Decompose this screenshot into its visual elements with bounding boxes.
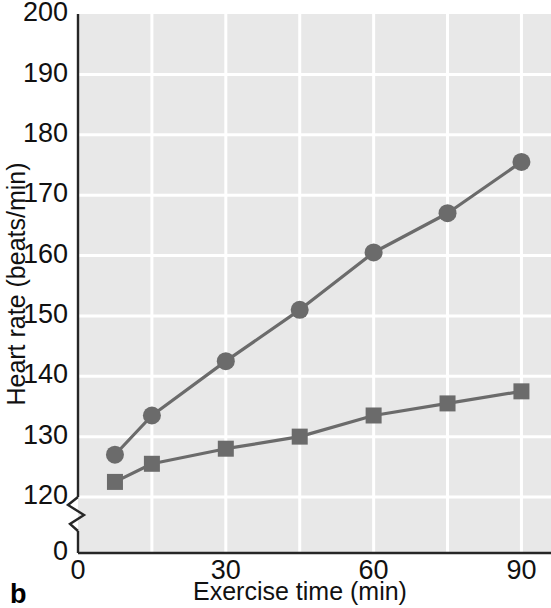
data-point-circle xyxy=(143,406,161,424)
data-point-square xyxy=(366,407,382,423)
y-axis-title: Heart rate (beats/min) xyxy=(2,162,30,405)
data-point-circle xyxy=(106,446,124,464)
data-point-circle xyxy=(512,153,530,171)
plot-background xyxy=(78,14,551,553)
data-point-circle xyxy=(365,243,383,261)
y-axis-origin-label: 0 xyxy=(53,536,68,566)
figure-panel-b: 120130140150160170180190200 0 0306090 He… xyxy=(0,0,551,608)
y-tick-label: 120 xyxy=(23,480,68,510)
data-point-circle xyxy=(439,204,457,222)
data-point-square xyxy=(107,474,123,490)
data-point-square xyxy=(292,429,308,445)
heart-rate-line-chart: 120130140150160170180190200 0 0306090 He… xyxy=(0,0,551,608)
x-axis-title: Exercise time (min) xyxy=(193,577,407,605)
y-tick-label: 130 xyxy=(23,420,68,450)
data-point-circle xyxy=(217,352,235,370)
data-point-circle xyxy=(291,301,309,319)
y-tick-label: 200 xyxy=(23,0,68,27)
plot-background-below-break xyxy=(78,497,551,553)
panel-label-b: b xyxy=(10,579,27,608)
data-point-square xyxy=(218,441,234,457)
data-point-square xyxy=(440,395,456,411)
x-tick-label: 0 xyxy=(70,555,85,585)
y-tick-label: 180 xyxy=(23,118,68,148)
x-tick-label: 90 xyxy=(506,555,536,585)
data-point-square xyxy=(513,383,529,399)
data-point-square xyxy=(144,456,160,472)
y-tick-label: 190 xyxy=(23,58,68,88)
